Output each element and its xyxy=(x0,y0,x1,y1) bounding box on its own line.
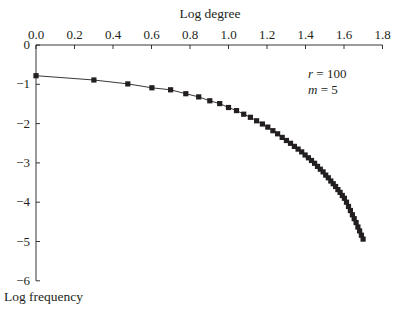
data-point xyxy=(183,91,188,96)
x-axis: 0.00.20.40.60.81.01.21.41.61.8 xyxy=(28,27,391,49)
data-markers xyxy=(33,73,365,242)
y-tick-label: −4 xyxy=(16,194,30,209)
data-point xyxy=(254,118,259,123)
x-tick-label: 0.2 xyxy=(66,27,82,42)
x-tick-label: 1.6 xyxy=(336,27,353,42)
data-point xyxy=(265,125,270,130)
y-tick-label: −1 xyxy=(16,76,30,91)
x-tick-label: 1.8 xyxy=(374,27,390,42)
y-tick-label: −3 xyxy=(16,155,30,170)
x-tick-label: 0.4 xyxy=(105,27,122,42)
data-point xyxy=(234,108,239,113)
fit-curve xyxy=(36,76,363,239)
x-tick-label: 1.4 xyxy=(297,27,314,42)
y-tick-label: 0 xyxy=(24,37,31,52)
y-tick-label: −2 xyxy=(16,116,30,131)
x-tick-label: 0.0 xyxy=(28,27,44,42)
data-point xyxy=(207,98,212,103)
x-tick-label: 1.0 xyxy=(220,27,236,42)
x-tick-label: 0.6 xyxy=(143,27,160,42)
chart: Log degree 0.00.20.40.60.81.01.21.41.61.… xyxy=(0,0,403,318)
data-point xyxy=(260,121,265,126)
data-point xyxy=(248,115,253,120)
data-point xyxy=(361,237,366,242)
data-point xyxy=(168,87,173,92)
y-tick-label: −6 xyxy=(16,273,30,288)
y-axis-title: Log frequency xyxy=(4,289,83,304)
data-point xyxy=(149,85,154,90)
data-point xyxy=(275,131,280,136)
x-tick-label: 1.2 xyxy=(259,27,275,42)
data-point xyxy=(241,112,246,117)
data-point xyxy=(226,105,231,110)
data-point xyxy=(125,81,130,86)
x-tick-label: 0.8 xyxy=(182,27,198,42)
x-axis-title: Log degree xyxy=(179,6,240,21)
annotation-r: r = 100 xyxy=(308,66,346,81)
data-point xyxy=(270,128,275,133)
data-point xyxy=(91,77,96,82)
y-tick-label: −5 xyxy=(16,234,30,249)
annotation-m: m = 5 xyxy=(308,82,338,97)
data-point xyxy=(217,101,222,106)
data-point xyxy=(33,73,38,78)
data-point xyxy=(196,94,201,99)
